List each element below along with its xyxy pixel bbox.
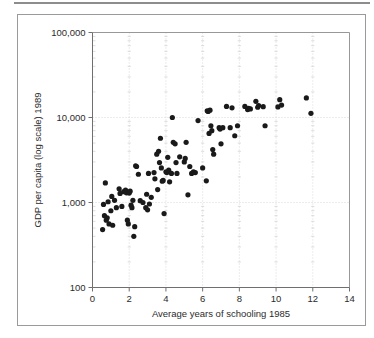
scatter-point: [167, 179, 172, 184]
scatter-point: [161, 178, 166, 183]
scatter-point: [108, 208, 113, 213]
scatter-point: [131, 234, 136, 239]
scatter-point: [101, 202, 106, 207]
scatter-point: [100, 227, 105, 232]
scatter-point: [134, 164, 139, 169]
scatter-point: [165, 155, 170, 160]
y-axis-tick-label: 100,000: [51, 27, 85, 38]
scatter-point: [211, 152, 216, 157]
scatter-point: [155, 187, 160, 192]
gridlines-group: [93, 33, 350, 288]
scatter-point: [114, 205, 119, 210]
data-points-group: [100, 95, 314, 239]
plot-area-border: [93, 33, 350, 288]
scatter-point: [161, 211, 166, 216]
scatter-point: [195, 118, 200, 123]
scatter-point: [209, 128, 214, 133]
scatter-point: [261, 104, 266, 109]
x-axis-tick-label: 14: [344, 293, 355, 304]
scatter-point: [279, 102, 284, 107]
x-axis-title: Average years of schooling 1985: [152, 308, 290, 319]
scatter-point: [156, 149, 161, 154]
x-axis-tick-label: 4: [163, 293, 168, 304]
scatter-point: [136, 172, 141, 177]
scatter-point: [185, 192, 190, 197]
scatter-point: [308, 111, 313, 116]
scatter-point: [304, 95, 309, 100]
scatter-point: [170, 115, 175, 120]
scatter-point: [140, 200, 145, 205]
scatter-point: [169, 171, 174, 176]
scatter-point: [144, 192, 149, 197]
x-axis-tick-label: 0: [90, 293, 95, 304]
y-axis-tick-label: 100: [70, 282, 86, 293]
scatter-point: [151, 170, 156, 175]
scatter-point: [224, 104, 229, 109]
scatter-point: [232, 133, 237, 138]
scatter-point: [145, 207, 150, 212]
scatter-point: [126, 221, 131, 226]
x-axis-tick-label: 12: [307, 293, 318, 304]
scatter-point: [208, 123, 213, 128]
x-axis-tick-label: 10: [271, 293, 282, 304]
scatter-point: [256, 103, 261, 108]
scatter-point: [204, 178, 209, 183]
scatter-point: [235, 123, 240, 128]
scatter-point: [158, 136, 163, 141]
scatter-point: [210, 147, 215, 152]
scatter-point: [149, 195, 154, 200]
scatter-point: [128, 189, 133, 194]
scatter-point: [184, 140, 189, 145]
y-axis-tick-label: 1,000: [62, 197, 86, 208]
scatter-point: [200, 165, 205, 170]
scatter-point: [177, 154, 182, 159]
scatter-point: [106, 199, 111, 204]
y-axis-title: GDP per capita (log scale) 1989: [32, 92, 43, 227]
scatter-point: [262, 123, 267, 128]
scatter-point: [218, 141, 223, 146]
x-axis-tick-label: 8: [237, 293, 242, 304]
scatter-point: [103, 180, 108, 185]
scatter-point: [193, 170, 198, 175]
scatter-point: [117, 186, 122, 191]
scatter-point: [130, 198, 135, 203]
scatter-point: [253, 99, 258, 104]
scatter-point: [119, 204, 124, 209]
scatter-point: [248, 106, 253, 111]
scatter-point: [157, 160, 162, 165]
minor-ticks-group: [93, 36, 315, 262]
scatter-point: [147, 201, 152, 206]
figure-container: 024681012141001,00010,000100,000 Average…: [0, 0, 374, 338]
scatter-point: [159, 165, 164, 170]
scatter-point: [277, 97, 282, 102]
scatter-point: [229, 105, 234, 110]
scatter-point: [207, 108, 212, 113]
y-axis-tick-label: 10,000: [56, 112, 85, 123]
x-axis-tick-label: 2: [127, 293, 132, 304]
scatter-point: [174, 171, 179, 176]
scatter-point: [105, 215, 110, 220]
x-axis-tick-label: 6: [200, 293, 205, 304]
scatter-point: [132, 224, 137, 229]
scatter-point: [228, 125, 233, 130]
scatter-chart: 024681012141001,00010,000100,000 Average…: [0, 0, 374, 338]
scatter-point: [187, 164, 192, 169]
scatter-point: [152, 176, 157, 181]
scatter-point: [112, 198, 117, 203]
scatter-point: [173, 160, 178, 165]
scatter-point: [183, 156, 188, 161]
scatter-point: [220, 125, 225, 130]
scatter-point: [173, 141, 178, 146]
scatter-point: [129, 205, 134, 210]
scatter-point: [146, 171, 151, 176]
scatter-point: [110, 223, 115, 228]
